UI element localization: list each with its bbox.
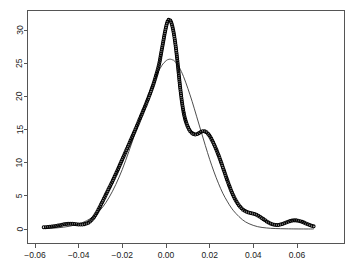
x-tick-label: 0.04 <box>245 250 262 260</box>
density-plot-figure: −0.06−0.04−0.020.000.020.040.06 05101520… <box>0 0 357 270</box>
y-tick-label: 0 <box>15 226 25 231</box>
figure-background <box>0 0 357 270</box>
x-tick-label: −0.04 <box>68 250 90 260</box>
y-tick-label: 10 <box>15 158 25 168</box>
x-tick-label: 0.00 <box>158 250 175 260</box>
x-tick-label: −0.02 <box>112 250 134 260</box>
y-tick-label: 20 <box>15 91 25 101</box>
y-tick-label: 5 <box>15 193 25 198</box>
y-tick-label: 25 <box>15 58 25 68</box>
x-tick-label: −0.06 <box>24 250 46 260</box>
y-tick-label: 15 <box>15 125 25 135</box>
plot-canvas: −0.06−0.04−0.020.000.020.040.06 05101520… <box>0 0 357 270</box>
x-tick-label: 0.02 <box>201 250 218 260</box>
x-tick-label: 0.06 <box>289 250 306 260</box>
y-tick-label: 30 <box>15 25 25 35</box>
